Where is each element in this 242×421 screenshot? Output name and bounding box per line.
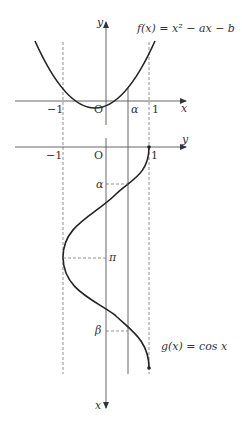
f-function-label: f(x) = x² − ax − b (137, 23, 235, 34)
bottom-tick-beta: β (95, 325, 101, 336)
top-tick-neg1: −1 (47, 104, 63, 115)
bottom-tick-pi: π (109, 252, 116, 263)
top-tick-1: 1 (152, 104, 159, 115)
top-x-axis-label: x (181, 103, 187, 114)
bottom-tick-1: 1 (151, 150, 158, 161)
cosine-end-point (147, 366, 151, 370)
g-function-label: g(x) = cos x (161, 341, 227, 352)
top-origin-label: O (94, 104, 103, 115)
top-y-axis-label: y (97, 17, 103, 28)
bottom-x-axis-label: x (95, 400, 101, 411)
top-tick-alpha: α (131, 104, 138, 115)
bottom-tick-neg1: −1 (46, 150, 62, 161)
function-graphs-diagram (0, 0, 242, 421)
bottom-y-axis-label: y (182, 134, 188, 145)
bottom-origin-label: O (94, 150, 103, 161)
parabola-curve (35, 41, 155, 108)
bottom-tick-alpha: α (96, 179, 103, 190)
